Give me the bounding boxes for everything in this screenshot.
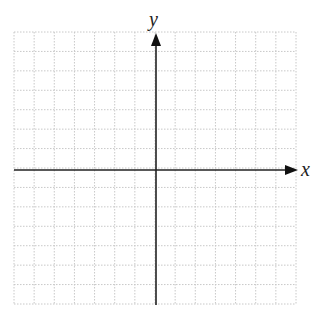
coordinate-plane: x y	[0, 0, 312, 312]
y-axis-label: y	[147, 8, 158, 31]
x-axis-label: x	[300, 158, 310, 180]
y-axis-arrow-icon	[151, 33, 161, 46]
y-axis	[151, 33, 161, 305]
grid	[14, 32, 296, 304]
